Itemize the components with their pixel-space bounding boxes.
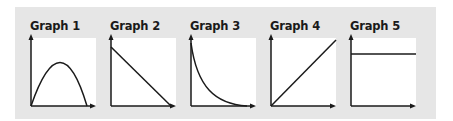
graph-1-curve — [15, 7, 95, 119]
y-axis-arrow-icon — [269, 34, 274, 40]
graph-5: Graph 5 — [335, 7, 415, 119]
graph-5-line — [335, 7, 415, 119]
y-axis-arrow-icon — [29, 34, 34, 40]
graph-3: Graph 3 — [175, 7, 255, 119]
graph-2-line — [95, 7, 175, 119]
graphs-panel: Graph 1 Graph 2 Graph 3 — [15, 7, 436, 119]
y-axis-arrow-icon — [189, 34, 194, 40]
y-axis-arrow-icon — [349, 34, 354, 40]
y-axis-arrow-icon — [109, 34, 114, 40]
graph-4-line — [255, 7, 335, 119]
graph-3-curve — [175, 7, 255, 119]
graph-1: Graph 1 — [15, 7, 95, 119]
graph-4: Graph 4 — [255, 7, 335, 119]
graph-2: Graph 2 — [95, 7, 175, 119]
